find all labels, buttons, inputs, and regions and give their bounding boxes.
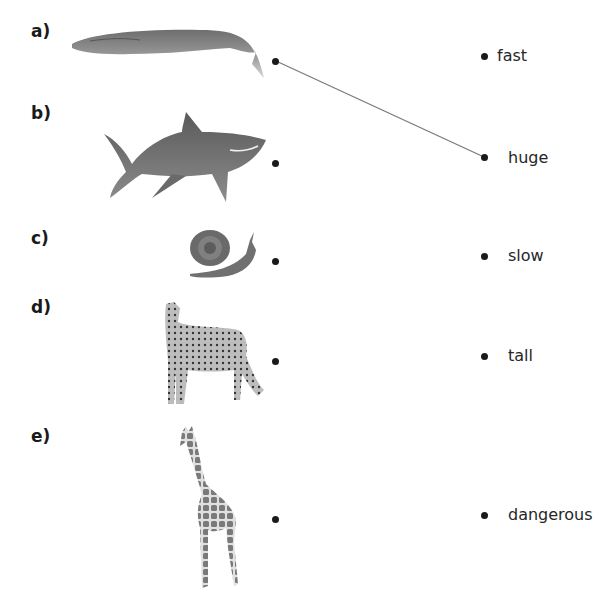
right-dot-fast[interactable] [481,53,488,60]
label-b: b) [31,103,51,123]
cheetah-image [160,300,270,410]
left-dot-b[interactable] [272,160,279,167]
left-dot-e[interactable] [272,516,279,523]
word-huge: huge [508,148,548,167]
left-dot-c[interactable] [272,258,279,265]
label-c: c) [31,228,49,248]
word-dangerous: dangerous [508,505,593,524]
right-dot-huge[interactable] [481,154,488,161]
snail-image [188,228,260,280]
label-a: a) [31,21,50,41]
word-fast: fast [497,46,527,65]
giraffe-image [178,424,254,594]
right-dot-slow[interactable] [481,253,488,260]
word-slow: slow [508,246,544,265]
shark-image [102,110,268,202]
whale-image [70,24,266,82]
label-d: d) [31,297,51,317]
right-dot-dangerous[interactable] [481,512,488,519]
right-dot-tall[interactable] [481,353,488,360]
left-dot-d[interactable] [272,358,279,365]
label-e: e) [31,426,50,446]
left-dot-a[interactable] [272,58,279,65]
word-tall: tall [508,346,533,365]
